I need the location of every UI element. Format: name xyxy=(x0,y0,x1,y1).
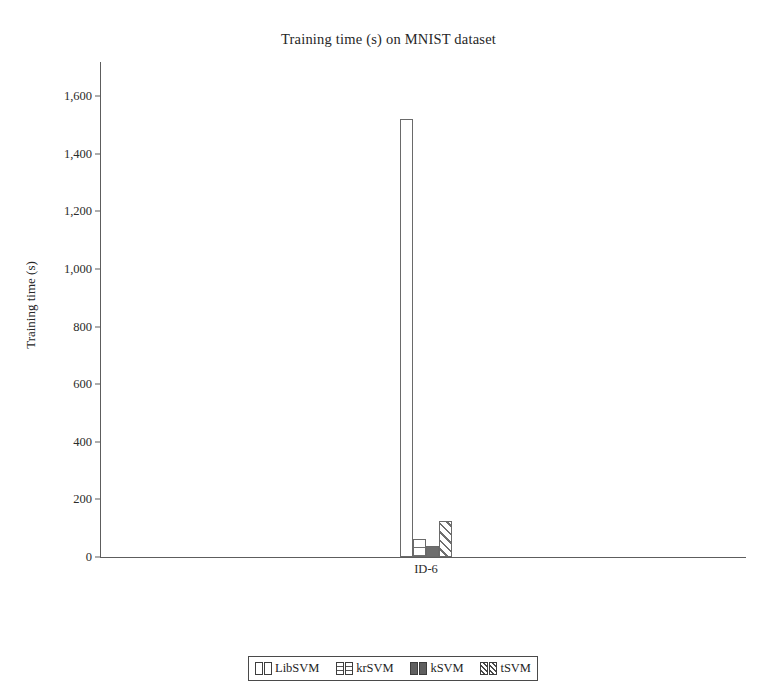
legend-swatch-icon xyxy=(345,662,353,675)
y-axis-tick-mark xyxy=(95,326,100,327)
legend-entry-ksvm[interactable]: kSVM xyxy=(410,661,463,676)
y-axis-tick-label: 1,000 xyxy=(0,261,92,276)
legend-swatch-icon xyxy=(489,662,497,675)
legend-label: LibSVM xyxy=(275,661,319,676)
y-axis-tick-mark xyxy=(95,384,100,385)
y-axis-tick-label: 600 xyxy=(0,377,92,392)
bar-ksvm xyxy=(426,546,439,557)
y-axis-tick-mark xyxy=(95,96,100,97)
y-axis-tick-mark xyxy=(95,268,100,269)
legend-swatch-icon xyxy=(419,662,427,675)
y-axis-tick-label: 400 xyxy=(0,434,92,449)
y-axis-tick-mark xyxy=(95,211,100,212)
chart-container: Training time (s) on MNIST dataset Train… xyxy=(0,0,777,692)
legend-swatch-icon xyxy=(336,662,344,675)
y-axis-tick-label: 1,200 xyxy=(0,204,92,219)
y-axis-tick-label: 0 xyxy=(0,550,92,565)
x-axis-line xyxy=(100,557,746,558)
legend-swatch-icon xyxy=(264,662,272,675)
y-axis-tick-mark xyxy=(95,557,100,558)
bar-tsvm xyxy=(439,521,452,557)
legend-label: krSVM xyxy=(356,661,394,676)
legend-swatch-icon xyxy=(410,662,418,675)
chart-title: Training time (s) on MNIST dataset xyxy=(0,31,777,48)
y-axis-tick-label: 200 xyxy=(0,492,92,507)
legend-swatch-icon xyxy=(480,662,488,675)
legend-entry-libsvm[interactable]: LibSVM xyxy=(255,661,319,676)
y-axis-line xyxy=(100,62,101,558)
y-axis-tick-label: 800 xyxy=(0,319,92,334)
legend-entry-tsvm[interactable]: tSVM xyxy=(480,661,531,676)
y-axis-tick-label: 1,400 xyxy=(0,146,92,161)
legend-entry-krsvm[interactable]: krSVM xyxy=(336,661,394,676)
legend-swatch-icon xyxy=(255,662,263,675)
y-axis-tick-mark xyxy=(95,441,100,442)
x-axis-tick-label: ID-6 xyxy=(414,562,438,577)
y-axis-tick-mark xyxy=(95,153,100,154)
legend-label: tSVM xyxy=(500,661,531,676)
y-axis-tick-mark xyxy=(95,499,100,500)
legend-label: kSVM xyxy=(430,661,463,676)
chart-legend: LibSVMkrSVMkSVMtSVM xyxy=(248,656,538,681)
bar-krsvm xyxy=(413,539,426,557)
bar-libsvm xyxy=(400,119,413,557)
y-axis-tick-label: 1,600 xyxy=(0,89,92,104)
